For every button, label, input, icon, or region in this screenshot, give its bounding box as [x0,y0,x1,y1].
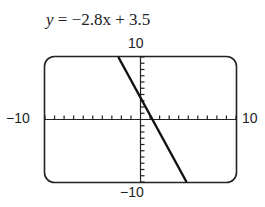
graph-screen [0,0,265,207]
axes [45,57,236,182]
